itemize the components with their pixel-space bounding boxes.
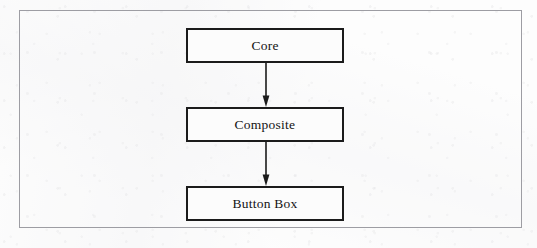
diagram-node-button-box-label: Button Box bbox=[232, 197, 297, 211]
diagram-node-composite: Composite bbox=[186, 107, 344, 142]
diagram-node-core-label: Core bbox=[251, 39, 278, 53]
arrow-down-icon-core-to-composite bbox=[258, 62, 274, 107]
diagram-node-button-box: Button Box bbox=[186, 186, 344, 221]
diagram-node-composite-label: Composite bbox=[235, 118, 296, 132]
arrow-down-icon-composite-to-buttonbox bbox=[258, 141, 274, 186]
diagram-node-core: Core bbox=[186, 28, 344, 63]
figure-canvas: Core Composite Button Box bbox=[0, 0, 537, 248]
